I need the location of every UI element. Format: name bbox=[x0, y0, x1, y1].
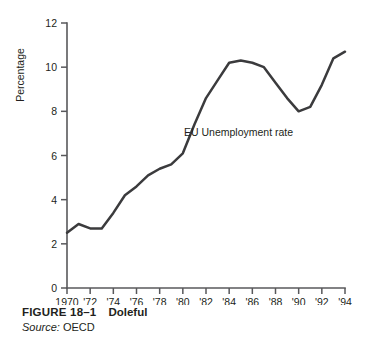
x-axis-tick-label: '86 bbox=[245, 296, 259, 305]
y-axis-tick-label: 8 bbox=[51, 105, 57, 117]
y-axis-tick-label: 4 bbox=[51, 194, 57, 206]
x-axis-tick-label: '78 bbox=[153, 296, 167, 305]
x-axis-tick-label: '90 bbox=[292, 296, 306, 305]
chart-annotations: EU Unemployment rate bbox=[184, 126, 293, 138]
y-axis-tick-label: 0 bbox=[51, 282, 57, 294]
x-axis-tick-label: '84 bbox=[222, 296, 236, 305]
y-axis-title: Percentage bbox=[13, 25, 27, 125]
x-axis-tick-label: '82 bbox=[199, 296, 213, 305]
y-axis: 024681012 bbox=[45, 17, 67, 294]
x-axis-tick-label: '72 bbox=[83, 296, 97, 305]
figure-title: Doleful bbox=[108, 306, 147, 318]
figure-caption: FIGURE 18–1Doleful Source: OECD bbox=[22, 305, 362, 334]
x-axis-tick-label: '88 bbox=[269, 296, 283, 305]
x-axis-tick-label: '76 bbox=[130, 296, 144, 305]
chart-plot-area: 024681012 1970'72'74'76'78'80'82'84'86'8… bbox=[0, 0, 369, 305]
caption-title-line: FIGURE 18–1Doleful bbox=[22, 305, 362, 320]
x-axis-tick-label: 1970 bbox=[55, 296, 79, 305]
series-line-eu-unemployment-rate bbox=[67, 52, 345, 233]
y-axis-tick-label: 10 bbox=[45, 61, 57, 73]
figure-number: FIGURE 18–1 bbox=[22, 306, 96, 318]
figure-container: 024681012 1970'72'74'76'78'80'82'84'86'8… bbox=[0, 0, 369, 343]
y-axis-tick-label: 2 bbox=[51, 238, 57, 250]
series-group bbox=[67, 52, 345, 233]
x-axis-tick-label: '94 bbox=[338, 296, 352, 305]
source-value: OECD bbox=[60, 321, 95, 333]
y-axis-tick-label: 6 bbox=[51, 150, 57, 162]
caption-source-line: Source: OECD bbox=[22, 320, 362, 334]
y-axis-tick-label: 12 bbox=[45, 17, 57, 29]
x-axis-tick-label: '92 bbox=[315, 296, 329, 305]
x-axis-tick-label: '80 bbox=[176, 296, 190, 305]
x-axis: 1970'72'74'76'78'80'82'84'86'88'90'92'94 bbox=[55, 288, 352, 305]
source-label: Source: bbox=[22, 321, 60, 333]
line-chart-svg: 024681012 1970'72'74'76'78'80'82'84'86'8… bbox=[0, 0, 369, 305]
x-axis-tick-label: '74 bbox=[106, 296, 120, 305]
series-label-annotation: EU Unemployment rate bbox=[184, 126, 293, 138]
